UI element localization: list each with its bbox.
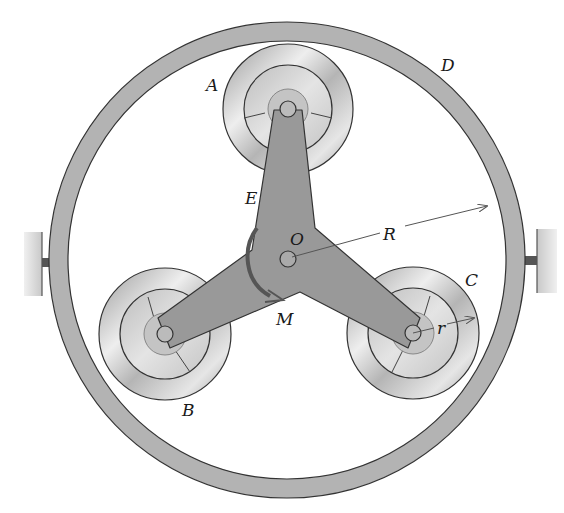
label-b: B: [181, 400, 195, 420]
label-a: A: [204, 75, 218, 95]
label-small-r: r: [437, 318, 446, 338]
label-o: O: [290, 229, 304, 249]
pivot-o: [280, 251, 296, 267]
label-e: E: [244, 188, 258, 208]
label-d: D: [440, 55, 455, 75]
label-m: M: [275, 309, 294, 329]
pin-a: [280, 101, 296, 117]
label-c: C: [465, 270, 478, 290]
pin-b: [157, 326, 173, 342]
diagram-canvas: A B C D E O R r M: [0, 0, 564, 513]
label-big-r: R: [382, 224, 396, 244]
